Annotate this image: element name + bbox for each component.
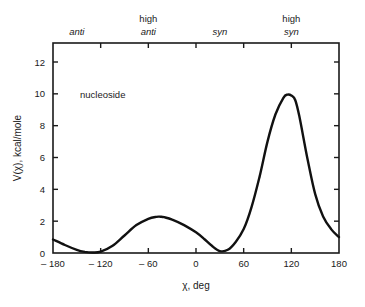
x-tick-label: – 60 [139,258,158,269]
y-tick-label: 6 [40,152,45,163]
y-tick-label: 4 [40,184,45,195]
y-axis: 024681012 [34,57,339,259]
potential-energy-chart: antihighantisynhighsyn – 180– 120– 60060… [0,0,365,307]
x-tick-label: 180 [331,258,347,269]
y-tick-label: 2 [40,216,45,227]
y-tick-label: 12 [34,57,45,68]
region-label-line2: syn [284,26,299,37]
y-axis-title: V(χ), kcal/mole [12,114,23,181]
conformation-region-labels: antihighantisynhighsyn [69,13,300,37]
nucleoside-annotation: nucleoside [80,89,125,100]
x-tick-label: 0 [193,258,198,269]
x-tick-label: – 120 [89,258,113,269]
x-tick-label: 60 [238,258,249,269]
plot-frame [53,43,339,253]
x-axis-title: χ, deg [182,280,210,291]
x-tick-label: 120 [283,258,299,269]
y-tick-label: 8 [40,120,45,131]
region-label-line1: high [282,13,300,24]
y-tick-label: 10 [34,88,45,99]
energy-curve [53,94,339,252]
region-label-line2: anti [69,26,85,37]
region-label-line1: high [139,13,157,24]
region-label-line2: anti [141,26,157,37]
region-label-line2: syn [212,26,227,37]
x-tick-label: – 180 [41,258,65,269]
y-tick-label: 0 [40,248,45,259]
